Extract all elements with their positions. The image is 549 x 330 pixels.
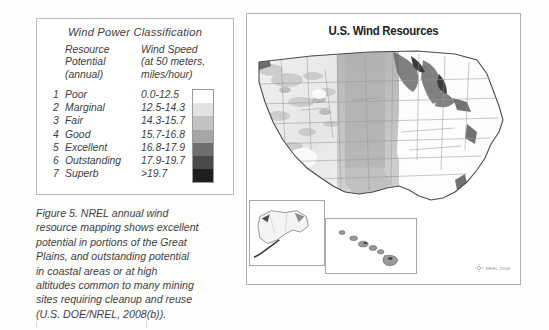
legend-row-label: Marginal <box>65 102 105 113</box>
legend-row-number: 4 <box>53 129 65 140</box>
legend-row-label: Outstanding <box>65 155 121 166</box>
figure-caption: Figure 5. NREL annual wind resource mapp… <box>36 206 241 321</box>
legend-header-resource-potential: Resource Potential (annual) <box>65 44 109 81</box>
wind-resources-map-panel: U.S. Wind Resources <box>246 13 521 285</box>
legend-row-label: Fair <box>65 115 83 126</box>
legend-row-speed: 16.8-17.9 <box>141 142 185 153</box>
nrel-credit: NREL 2008 <box>475 264 510 272</box>
legend-swatch <box>193 143 213 156</box>
caption-line: Plains, and outstanding potential <box>36 249 241 263</box>
caption-line: sites requiring cleanup and reuse <box>36 292 241 306</box>
legend-swatch <box>193 169 213 182</box>
legend-header-wind-speed: Wind Speed (at 50 meters, miles/hour) <box>141 44 205 81</box>
legend-row-number: 7 <box>53 168 65 179</box>
legend-row-number: 3 <box>53 115 65 126</box>
caption-line: Figure 5. NREL annual wind <box>36 206 241 220</box>
legend-row-speed: 12.5-14.3 <box>141 102 185 113</box>
document-page: Wind Power Classification Resource Poten… <box>0 0 549 330</box>
alaska-inset <box>249 200 325 266</box>
legend-row-speed: 14.3-15.7 <box>141 115 185 126</box>
legend-swatch <box>193 130 213 143</box>
legend-row-label: Superb <box>65 168 99 179</box>
legend-swatch <box>193 103 213 116</box>
registration-tick <box>146 321 147 328</box>
legend-row-number: 1 <box>53 89 65 100</box>
legend-row-speed: >19.7 <box>141 168 167 179</box>
legend-row-speed: 0.0-12.5 <box>141 89 179 100</box>
legend-row-number: 5 <box>53 142 65 153</box>
legend-swatch <box>193 116 213 129</box>
caption-line: in coastal areas or at high <box>36 264 241 278</box>
hawaii-inset <box>325 218 417 274</box>
legend-color-scale <box>192 89 214 183</box>
caption-line: altitudes common to many mining <box>36 278 241 292</box>
nrel-logo-icon <box>475 264 483 272</box>
legend-row-label: Good <box>65 129 90 140</box>
legend-row-speed: 17.9-19.7 <box>141 155 185 166</box>
caption-line: (U.S. DOE/NREL, 2008(b)). <box>36 307 241 321</box>
caption-line: potential in portions of the Great <box>36 235 241 249</box>
registration-tick <box>36 321 37 328</box>
map-stage: NREL 2008 <box>247 40 521 284</box>
legend-title: Wind Power Classification <box>37 26 233 38</box>
wind-power-classification-legend: Wind Power Classification Resource Poten… <box>36 18 234 195</box>
legend-row-label: Poor <box>65 89 87 100</box>
legend-row-label: Excellent <box>65 142 107 153</box>
legend-row-speed: 15.7-16.8 <box>141 129 185 140</box>
nrel-credit-text: NREL 2008 <box>486 266 510 271</box>
legend-row-number: 6 <box>53 155 65 166</box>
legend-row-number: 2 <box>53 102 65 113</box>
map-title: U.S. Wind Resources <box>263 23 503 38</box>
legend-swatch <box>193 90 213 103</box>
legend-swatch <box>193 156 213 169</box>
caption-line: resource mapping shows excellent <box>36 220 241 234</box>
